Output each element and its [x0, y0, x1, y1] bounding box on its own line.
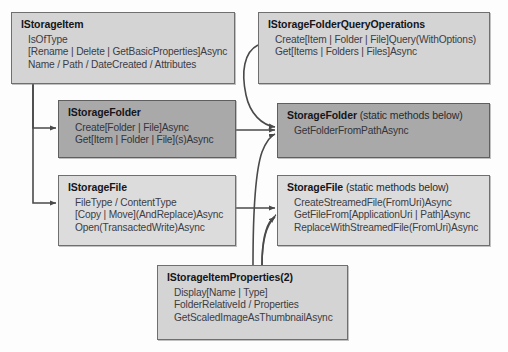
- node-member: [Rename | Delete | GetBasicProperties]As…: [28, 46, 226, 58]
- edge-iprops-storagefolder: [253, 134, 275, 265]
- node-istorageitem-title: IStorageItem: [21, 18, 226, 31]
- edge-istorageitem-istoragefolder: [33, 84, 56, 128]
- node-member: IsOfType: [28, 34, 226, 46]
- node-istorageitem-members: IsOfType [Rename | Delete | GetBasicProp…: [21, 34, 226, 71]
- node-istorageitemproperties-title-text: IStorageItemProperties(2): [167, 271, 293, 283]
- node-storagefile-members: CreateStreamedFile(FromUri)Async GetFile…: [287, 197, 481, 234]
- node-member: ReplaceWithStreamedFile(FromUri)Async: [294, 222, 481, 234]
- node-storagefolder-members: GetFolderFromPathAsync: [287, 125, 481, 137]
- node-member: Create[Folder | File]Async: [75, 122, 227, 134]
- node-istoragefolderqueryoperations-members: Create[Item | Folder | File]Query(WithOp…: [268, 34, 481, 59]
- node-istoragefile[interactable]: IStorageFile FileType / ContentType [Cop…: [58, 175, 236, 246]
- node-storagefile-title-text: StorageFile: [287, 181, 343, 193]
- node-storagefolder[interactable]: StorageFolder (static methods below) Get…: [277, 103, 490, 158]
- node-istoragefolder-members: Create[Folder | File]Async Get[Item | Fo…: [68, 122, 227, 147]
- node-storagefile-subtitle: (static methods below): [346, 181, 449, 193]
- edge-iprops-storagefile-tail: [262, 215, 275, 265]
- node-member: Get[Items | Folders | Files]Async: [275, 46, 481, 58]
- node-istoragefolder-title: IStorageFolder: [68, 106, 227, 119]
- node-istoragefile-members: FileType / ContentType [Copy | Move](And…: [68, 197, 227, 234]
- node-member: GetScaledImageAsThumbnailAsync: [174, 312, 339, 324]
- node-storagefile-title: StorageFile (static methods below): [287, 181, 481, 194]
- node-istorageitem-title-text: IStorageItem: [21, 18, 83, 30]
- edge-istorageitem-istoragefile: [33, 84, 56, 203]
- node-istoragefile-title: IStorageFile: [68, 181, 227, 194]
- node-istoragefolder-title-text: IStorageFolder: [68, 106, 141, 118]
- node-istoragefolderqueryoperations[interactable]: IStorageFolderQueryOperations Create[Ite…: [258, 12, 490, 84]
- node-member: Name / Path / DateCreated / Attributes: [28, 59, 226, 71]
- node-istorageitemproperties[interactable]: IStorageItemProperties(2) Display[Name |…: [157, 265, 348, 340]
- node-member: CreateStreamedFile(FromUri)Async: [294, 197, 481, 209]
- edge-iprops-storagefile: [262, 217, 275, 265]
- node-member: Get[Item | Folder | File](s)Async: [75, 134, 227, 146]
- diagram-canvas: IStorageItem IsOfType [Rename | Delete |…: [0, 0, 508, 352]
- node-istoragefolder[interactable]: IStorageFolder Create[Folder | File]Asyn…: [58, 100, 236, 158]
- node-istoragefile-title-text: IStorageFile: [68, 181, 127, 193]
- node-storagefolder-title-text: StorageFolder: [287, 109, 357, 121]
- node-istorageitem[interactable]: IStorageItem IsOfType [Rename | Delete |…: [11, 12, 235, 84]
- node-member: FileType / ContentType: [75, 197, 227, 209]
- node-istoragefolderqueryoperations-title-text: IStorageFolderQueryOperations: [268, 18, 425, 30]
- node-istorageitemproperties-title: IStorageItemProperties(2): [167, 271, 339, 284]
- node-storagefolder-subtitle: (static methods below): [360, 109, 463, 121]
- node-member: FolderRelativeId / Properties: [174, 299, 339, 311]
- node-member: [Copy | Move](AndReplace)Async: [75, 209, 227, 221]
- node-storagefolder-title: StorageFolder (static methods below): [287, 109, 481, 122]
- node-member: Display[Name | Type]: [174, 287, 339, 299]
- node-member: Create[Item | Folder | File]Query(WithOp…: [275, 34, 481, 46]
- node-storagefile[interactable]: StorageFile (static methods below) Creat…: [277, 175, 490, 246]
- node-istorageitemproperties-members: Display[Name | Type] FolderRelativeId / …: [167, 287, 339, 324]
- node-member: GetFolderFromPathAsync: [294, 125, 481, 137]
- node-member: GetFileFrom[ApplicationUri | Path]Async: [294, 209, 481, 221]
- node-member: Open(TransactedWrite)Async: [75, 222, 227, 234]
- node-istoragefolderqueryoperations-title: IStorageFolderQueryOperations: [268, 18, 481, 31]
